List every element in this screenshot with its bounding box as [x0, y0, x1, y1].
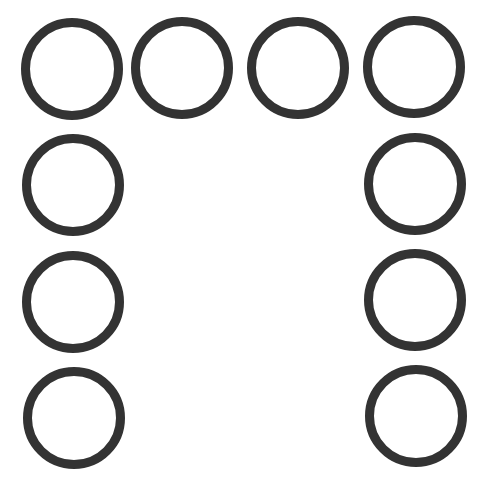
ring-icon — [365, 365, 467, 467]
ring-icon — [363, 16, 465, 118]
ring-icon — [23, 367, 125, 469]
ring-arrangement-canvas — [0, 0, 486, 504]
ring-icon — [364, 249, 466, 351]
ring-icon — [21, 18, 123, 120]
ring-icon — [22, 134, 124, 236]
ring-icon — [22, 251, 124, 353]
ring-icon — [131, 17, 233, 119]
ring-icon — [247, 17, 349, 119]
ring-icon — [364, 133, 466, 235]
